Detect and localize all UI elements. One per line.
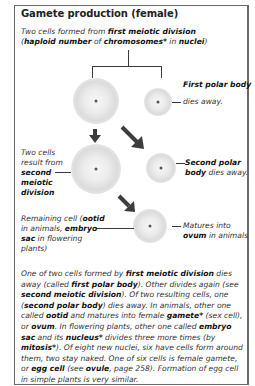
down-arrow-icon: [89, 129, 101, 143]
paragraph-text: One of two cells formed by: [21, 269, 126, 278]
nucleus-dot: [157, 101, 160, 104]
second-polar-pointer: [176, 163, 185, 164]
key-term: ovum: [31, 322, 55, 331]
first-polar-body-cell: [144, 88, 172, 116]
large-cell-2: [71, 144, 121, 194]
remaining-line-1: Remaining cell (ootid: [21, 214, 105, 225]
bracket-left-leg: [92, 66, 93, 78]
remaining-line-3: sac in flowering: [21, 234, 82, 245]
second-division-line-3: second: [21, 168, 51, 179]
key-term: second meiotic division: [21, 290, 121, 299]
first-polar-desc: dies away.: [183, 97, 223, 108]
key-term: ovule: [86, 364, 109, 373]
second-division-line-1: Two cells: [21, 148, 55, 159]
remaining-cell: [133, 209, 167, 243]
diagonal-arrow-icon-2: [117, 194, 137, 214]
paragraph-text: . In flowering plants, other one called: [55, 322, 199, 331]
key-term: second polar body: [24, 301, 103, 310]
second-polar-body-cell: [146, 153, 176, 183]
paragraph-text: and matures into female: [68, 311, 167, 320]
nucleus-dot: [95, 100, 98, 103]
second-division-line-4: meiotic: [21, 178, 53, 189]
matures-line-1: Matures into: [183, 221, 231, 232]
intro-line-1: Two cells formed from first meiotic divi…: [21, 27, 196, 38]
paragraph-text: (see: [65, 364, 86, 373]
key-term: gamete*: [167, 311, 203, 320]
bracket-bar: [92, 66, 162, 67]
remaining-line-4: plants): [21, 244, 47, 255]
key-term: ootid: [46, 311, 68, 320]
paragraph-text: ). Other divides again (see: [138, 280, 239, 289]
paragraph-text: and its: [35, 333, 66, 342]
key-term: first meiotic division: [126, 269, 214, 278]
second-polar-label: Second polar: [185, 158, 241, 169]
nucleus-dot: [149, 225, 152, 228]
second-division-pointer: [55, 172, 71, 173]
large-cell-1: [73, 78, 119, 124]
remaining-pointer: [96, 228, 134, 229]
matures-line-2: ovum in animals: [183, 231, 248, 242]
key-term: nucleus*: [66, 333, 103, 342]
bracket-right-leg: [161, 66, 162, 78]
key-term: first polar body: [71, 280, 137, 289]
bracket-stem: [128, 50, 129, 66]
first-polar-label: First polar body: [183, 80, 251, 91]
second-division-line-5: division: [21, 188, 54, 199]
key-term: mitosis*: [21, 343, 56, 352]
nucleus-dot: [95, 168, 98, 171]
remaining-line-2: in animals, embryo: [21, 224, 97, 235]
key-term: egg cell: [31, 364, 65, 373]
paragraph-text: divides three more times (by: [103, 333, 216, 342]
second-polar-desc: body dies away.: [185, 168, 248, 179]
intro-line-2: (haploid number of chromosomes* in nucle…: [21, 37, 207, 48]
second-division-line-2: result from: [21, 158, 63, 169]
description-paragraph: One of two cells formed by first meiotic…: [21, 269, 247, 386]
nucleus-dot: [160, 167, 163, 170]
matures-pointer: [172, 226, 181, 227]
first-polar-pointer: [172, 102, 181, 103]
box-title: Gamete production (female): [21, 8, 178, 19]
diagonal-arrow-icon: [120, 125, 146, 151]
